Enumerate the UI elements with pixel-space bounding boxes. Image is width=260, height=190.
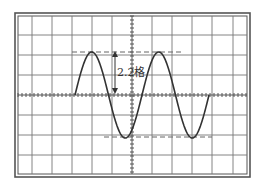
amplitude-label: 2.2格 [117, 65, 146, 79]
oscilloscope-screen: 2.2格 [0, 0, 260, 190]
